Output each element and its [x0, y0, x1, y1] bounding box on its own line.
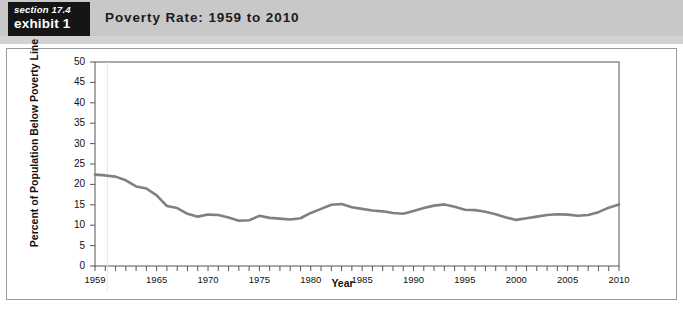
y-tick-label: 15: [63, 199, 85, 210]
x-tick-label: 1990: [394, 274, 434, 285]
x-tick-label: 1970: [188, 274, 228, 285]
exhibit-title: Poverty Rate: 1959 to 2010: [105, 10, 300, 25]
y-tick-label: 0: [63, 260, 85, 271]
exhibit-page: section 17.4 exhibit 1 Poverty Rate: 195…: [0, 0, 683, 313]
x-tick-label: 1985: [342, 274, 382, 285]
x-tick-label: 1965: [137, 274, 177, 285]
x-tick-label: 1975: [239, 274, 279, 285]
y-tick-label: 5: [63, 240, 85, 251]
plot-frame: [95, 62, 619, 266]
x-tick-label: 1995: [445, 274, 485, 285]
poverty-rate-line-chart: [7, 49, 678, 301]
exhibit-label: exhibit 1: [14, 16, 85, 31]
chart-panel: Percent of Population Below Poverty Line…: [6, 48, 677, 300]
x-tick-label: 2010: [599, 274, 639, 285]
exhibit-header-band: section 17.4 exhibit 1 Poverty Rate: 195…: [0, 0, 683, 44]
section-label: section 17.4: [14, 4, 85, 16]
chart-area: Percent of Population Below Poverty Line…: [7, 49, 678, 301]
x-tick-label: 2005: [548, 274, 588, 285]
x-tick-label: 2000: [496, 274, 536, 285]
y-tick-label: 35: [63, 117, 85, 128]
y-tick-label: 10: [63, 219, 85, 230]
exhibit-tag: section 17.4 exhibit 1: [8, 2, 90, 36]
y-tick-label: 45: [63, 76, 85, 87]
x-tick-label: 1980: [291, 274, 331, 285]
y-tick-label: 50: [63, 56, 85, 67]
y-tick-label: 40: [63, 97, 85, 108]
y-tick-label: 20: [63, 178, 85, 189]
x-tick-label: 1959: [75, 274, 115, 285]
y-tick-label: 30: [63, 138, 85, 149]
y-tick-label: 25: [63, 158, 85, 169]
